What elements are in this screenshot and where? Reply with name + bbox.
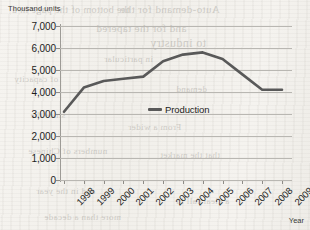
- y-axis-tick-label: 4,000: [0, 87, 56, 98]
- x-axis-tick-label: 2004: [193, 185, 215, 207]
- series-production-line: [60, 26, 292, 180]
- x-axis-tick-label: 2006: [233, 185, 255, 207]
- y-axis-tick-label: 3,000: [0, 109, 56, 120]
- legend-label-production: Production: [165, 104, 209, 115]
- x-axis-tick-label: 2008: [272, 185, 294, 207]
- x-axis-tick-label: 2007: [252, 185, 274, 207]
- y-axis-tick-label: 5,000: [0, 65, 56, 76]
- x-axis-title: Year: [289, 216, 304, 225]
- y-axis-tick-label: 6,000: [0, 43, 56, 54]
- y-axis-tick-label: 7,000: [0, 21, 56, 32]
- x-axis-tick-label: 1998: [74, 185, 96, 207]
- y-axis-tick-label: 1,000: [0, 153, 56, 164]
- x-axis-tick-label: 2003: [173, 185, 195, 207]
- line-chart: Thousand units 7,0006,0005,0004,0003,000…: [0, 0, 310, 230]
- y-axis-title: Thousand units: [8, 4, 61, 13]
- x-axis-tick-label: 2005: [213, 185, 235, 207]
- plot-area: [60, 26, 292, 180]
- y-axis-tick-label: 2,000: [0, 131, 56, 142]
- chart-legend: Production: [148, 104, 209, 115]
- x-axis-tick-label: 2002: [153, 185, 175, 207]
- x-axis-tick-label: 2000: [114, 185, 136, 207]
- x-axis-tick-label: 2009: [292, 185, 310, 207]
- y-axis-tick-label: 0: [0, 175, 56, 186]
- legend-swatch-production: [148, 108, 162, 111]
- x-axis-tick-label: 1999: [94, 185, 116, 207]
- x-axis-tick-label: 2001: [134, 185, 156, 207]
- gridline: [60, 180, 292, 181]
